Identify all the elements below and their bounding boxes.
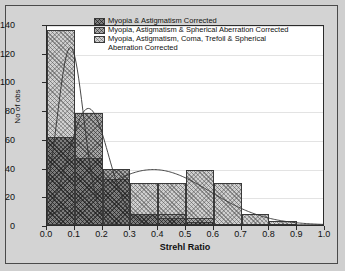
x-tick-label: 0.3 <box>114 229 144 239</box>
legend-swatch-spherical-aberration-icon <box>94 27 105 34</box>
x-tick-label: 0.5 <box>170 229 200 239</box>
x-tick-mark <box>157 226 158 230</box>
x-tick-label: 0.2 <box>87 229 117 239</box>
fit-curve <box>47 47 323 225</box>
legend-item: Myopia, Astigmatism, Coma, Trefoil & Sph… <box>94 35 289 52</box>
x-tick-mark <box>185 226 186 230</box>
x-tick-label: 0.4 <box>142 229 172 239</box>
x-tick-label: 0.9 <box>281 229 311 239</box>
x-tick-mark <box>324 226 325 230</box>
x-tick-mark <box>213 226 214 230</box>
legend-swatch-coma-trefoil-icon <box>94 36 105 43</box>
figure-panel: No of obs 020406080100120140 0.00.10.20.… <box>5 5 338 264</box>
x-tick-mark <box>241 226 242 230</box>
y-tick-label: 100 <box>0 77 15 87</box>
y-tick-label: 40 <box>0 164 15 174</box>
x-tick-label: 0.1 <box>59 229 89 239</box>
y-tick-label: 80 <box>0 106 15 116</box>
fit-curve <box>47 108 323 225</box>
y-tick-label: 60 <box>0 135 15 145</box>
x-tick-label: 0.8 <box>253 229 283 239</box>
y-tick-label: 0 <box>0 221 15 231</box>
chart-legend: Myopia & Astigmatism Corrected Myopia, A… <box>94 17 289 53</box>
x-tick-label: 0.0 <box>31 229 61 239</box>
x-tick-label: 0.6 <box>198 229 228 239</box>
x-tick-mark <box>102 226 103 230</box>
x-tick-mark <box>296 226 297 230</box>
x-tick-mark <box>74 226 75 230</box>
y-tick-label: 120 <box>0 49 15 59</box>
y-tick-label: 20 <box>0 192 15 202</box>
x-tick-mark <box>46 226 47 230</box>
x-tick-mark <box>268 226 269 230</box>
distribution-fit-curves <box>47 26 323 225</box>
x-tick-mark <box>129 226 130 230</box>
legend-swatch-myopia-astigmatism-icon <box>94 18 105 25</box>
x-tick-label: 1.0 <box>309 229 339 239</box>
x-tick-label: 0.7 <box>226 229 256 239</box>
y-tick-label: 140 <box>0 20 15 30</box>
legend-label: Myopia, Astigmatism, Coma, Trefoil & Sph… <box>108 35 266 52</box>
x-axis-label: Strehl Ratio <box>46 242 324 252</box>
plot-area <box>46 25 324 226</box>
fit-curve <box>47 170 323 225</box>
